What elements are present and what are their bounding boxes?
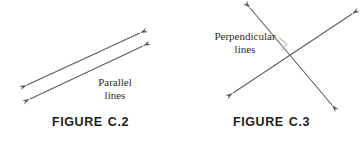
parallel-lines-label: Parallel lines [84, 76, 146, 101]
figure-parallel-caption-number: C.2 [108, 115, 129, 129]
parallel-label-line1: Parallel [84, 76, 146, 89]
figure-perpendicular: Perpendicular lines FIGUREC.3 [181, 0, 362, 143]
figure-parallel: Parallel lines FIGUREC.2 [0, 0, 181, 143]
perpendicular-label-line1: Perpendicular [193, 30, 297, 43]
falling-perpendicular-line [250, 8, 332, 105]
figure-parallel-caption: FIGUREC.2 [0, 115, 181, 129]
parallel-label-line2: lines [84, 89, 146, 102]
perpendicular-label-line2: lines [193, 43, 297, 56]
perpendicular-lines-label: Perpendicular lines [193, 30, 297, 55]
figure-perpendicular-caption-number: C.3 [289, 115, 310, 129]
figure-perpendicular-caption: FIGUREC.3 [181, 115, 362, 129]
figure-parallel-caption-word: FIGURE [52, 115, 103, 129]
figure-sheet: Parallel lines FIGUREC.2 Perpendicular l… [0, 0, 362, 143]
figure-perpendicular-caption-word: FIGURE [233, 115, 284, 129]
